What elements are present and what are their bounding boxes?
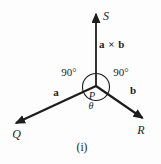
label-cross-product: a × b (99, 38, 125, 50)
diagram-canvas: S a × b 90° 90° P θ a b Q R (i) (0, 0, 161, 164)
label-s: S (103, 9, 109, 23)
figure-caption: (i) (77, 141, 88, 154)
label-theta: θ (89, 100, 94, 111)
label-angle-left: 90° (61, 66, 76, 78)
label-point-q: Q (12, 127, 21, 141)
label-vector-b: b (130, 84, 136, 96)
label-angle-right: 90° (113, 66, 128, 78)
label-point-r: R (136, 123, 145, 137)
label-vector-a: a (53, 86, 59, 98)
vector-cross-product-figure: S a × b 90° 90° P θ a b Q R (i) (0, 0, 161, 164)
